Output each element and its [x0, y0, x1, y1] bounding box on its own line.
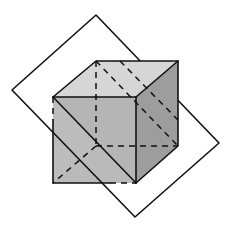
cube-plane-diagram [0, 0, 238, 230]
